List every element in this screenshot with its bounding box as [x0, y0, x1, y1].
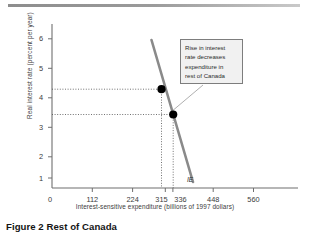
- svg-text:3: 3: [39, 123, 43, 132]
- chart-plot-area: 6 5 4 3 2 1 0 112 224 315 336 448 560: [0, 8, 310, 210]
- annotation-line-3: expenditure in: [185, 62, 239, 71]
- figure-caption: Figure 2 Rest of Canada: [6, 221, 117, 232]
- data-point-upper: [157, 85, 165, 93]
- annotation-leader-line: [171, 85, 203, 112]
- svg-text:4: 4: [39, 93, 43, 102]
- annotation-line-4: rest of Canada: [185, 71, 239, 80]
- annotation-callout: Rise in interest rate decreases expendit…: [180, 39, 243, 84]
- svg-text:2: 2: [39, 152, 43, 161]
- x-axis-title: Interest-sensitive expenditure (billions…: [0, 203, 310, 210]
- ie-curve-label: IE: [187, 176, 193, 183]
- annotation-line-1: Rise in interest: [185, 43, 239, 52]
- x-axis-ticks: [92, 188, 253, 192]
- svg-text:1: 1: [39, 174, 43, 183]
- y-axis-ticks: [48, 39, 52, 178]
- y-axis-tick-labels: 6 5 4 3 2 1: [39, 34, 43, 182]
- annotation-line-2: rate decreases: [185, 52, 239, 61]
- svg-text:5: 5: [39, 64, 43, 73]
- data-point-lower: [169, 110, 177, 118]
- svg-text:6: 6: [39, 34, 43, 43]
- guide-lines: [52, 89, 173, 188]
- y-axis-title: Real interest rate (percent per year): [26, 1, 33, 131]
- figure-container: 6 5 4 3 2 1 0 112 224 315 336 448 560: [0, 0, 310, 242]
- top-divider-rule: [8, 4, 300, 7]
